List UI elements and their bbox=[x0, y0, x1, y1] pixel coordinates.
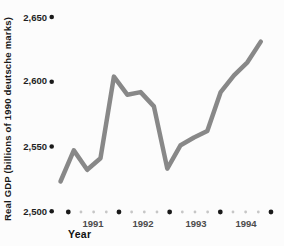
y-tick-dot bbox=[49, 209, 54, 214]
x-tick-label: 1993 bbox=[179, 218, 213, 229]
y-tick-dot bbox=[49, 79, 54, 84]
x-quarter-tick-dot bbox=[244, 211, 247, 214]
x-quarter-tick-dot bbox=[181, 211, 184, 214]
x-quarter-tick-dot bbox=[130, 211, 133, 214]
x-quarter-tick-dot bbox=[80, 211, 83, 214]
x-year-tick-dot bbox=[218, 210, 223, 215]
x-quarter-tick-dot bbox=[232, 211, 235, 214]
x-quarter-tick-dot bbox=[105, 211, 108, 214]
x-quarter-tick-dot bbox=[143, 211, 146, 214]
plot-area bbox=[0, 0, 284, 246]
x-quarter-tick-dot bbox=[257, 211, 260, 214]
x-quarter-tick-dot bbox=[92, 211, 95, 214]
x-year-tick-dot bbox=[167, 210, 172, 215]
y-tick-dot bbox=[49, 15, 54, 20]
x-tick-label: 1992 bbox=[126, 218, 160, 229]
x-quarter-tick-dot bbox=[156, 211, 159, 214]
x-quarter-tick-dot bbox=[206, 211, 209, 214]
x-year-tick-dot bbox=[269, 210, 274, 215]
x-year-tick-dot bbox=[66, 210, 71, 215]
x-year-tick-dot bbox=[117, 210, 122, 215]
x-axis-title: Year bbox=[68, 228, 91, 240]
x-tick-label: 1994 bbox=[229, 218, 263, 229]
x-quarter-tick-dot bbox=[194, 211, 197, 214]
gdp-data-line bbox=[61, 42, 261, 182]
gdp-line-chart: Real GDP (billions of 1990 deutsche mark… bbox=[0, 0, 284, 246]
y-tick-dot bbox=[49, 144, 54, 149]
